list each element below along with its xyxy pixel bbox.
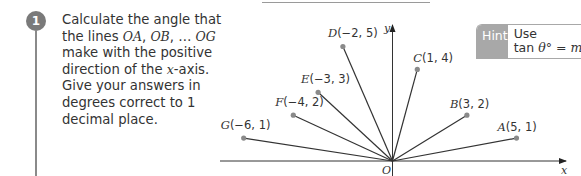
ray-OD — [343, 47, 393, 162]
point-F — [291, 113, 296, 118]
point-label-A: A(5, 1) — [497, 120, 537, 134]
point-D — [340, 44, 345, 49]
point-C — [415, 67, 420, 72]
y-axis-label: y — [383, 22, 391, 35]
origin-label: O — [382, 164, 391, 176]
point-label-B: B(3, 2) — [449, 97, 489, 111]
point-label-C: C(1, 4) — [413, 51, 453, 65]
ray-OG — [244, 138, 393, 161]
point-label-G: G(−6, 1) — [221, 118, 271, 132]
point-A — [514, 136, 519, 141]
point-E — [316, 90, 321, 95]
point-label-F: F(−4, 2) — [274, 95, 324, 109]
rays-group: A(5, 1)B(3, 2)C(1, 4)D(−2, 5)E(−3, 3)F(−… — [221, 26, 537, 162]
point-label-E: E(−3, 3) — [300, 72, 350, 86]
point-G — [241, 136, 246, 141]
ray-OC — [393, 69, 418, 161]
x-axis-label: x — [561, 164, 568, 176]
point-B — [464, 113, 469, 118]
point-label-D: D(−2, 5) — [327, 26, 378, 40]
ray-OF — [293, 115, 392, 161]
